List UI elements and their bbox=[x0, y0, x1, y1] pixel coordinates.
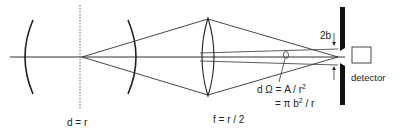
ray-lower bbox=[82, 57, 208, 95]
ray-converge-upper bbox=[208, 19, 338, 57]
mirror-distance-label: d = r bbox=[67, 117, 88, 128]
solid-angle-equation-2: = π b2 / r bbox=[275, 97, 315, 109]
slit-width-label: 2b bbox=[320, 30, 332, 41]
area-pointer bbox=[279, 59, 285, 82]
detector-label: detector bbox=[351, 72, 385, 83]
arrow-up-icon bbox=[332, 66, 336, 70]
ray-upper bbox=[82, 19, 208, 57]
focal-length-label: f = r / 2 bbox=[213, 114, 245, 125]
arrow-down-icon bbox=[332, 42, 336, 46]
slit-edge-lower bbox=[340, 63, 345, 69]
solid-angle-equation-1: d Ω = A / r2 bbox=[257, 83, 306, 95]
slit-edge-upper bbox=[340, 44, 345, 51]
screen-lower bbox=[340, 69, 345, 105]
optical-diagram: 2b detector d = r f = r / 2 d Ω = A / r2… bbox=[0, 0, 403, 131]
detector-box bbox=[352, 47, 371, 63]
screen-upper bbox=[340, 7, 345, 44]
